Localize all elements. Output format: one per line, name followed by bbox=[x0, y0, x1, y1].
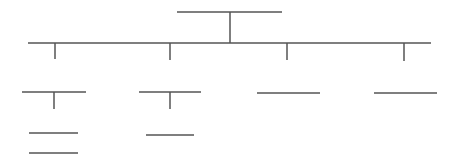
org-chart-diagram bbox=[0, 0, 457, 168]
